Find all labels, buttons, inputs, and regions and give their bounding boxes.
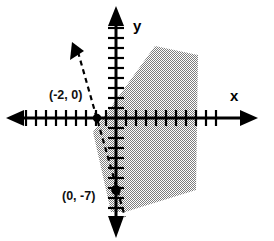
x-axis-label: x xyxy=(230,88,238,103)
y-axis-label: y xyxy=(133,18,141,33)
boundary-line-arrowhead xyxy=(70,42,84,60)
point-label-b: (0, -7) xyxy=(62,190,95,203)
point-label-a: (-2, 0) xyxy=(49,89,82,102)
x-axis-right-arrowhead xyxy=(240,110,258,126)
y-axis-bottom-arrowhead xyxy=(108,216,124,238)
point-marker-b xyxy=(111,185,121,195)
x-axis-left-arrowhead xyxy=(6,110,24,126)
point-marker-a xyxy=(93,114,101,122)
graph-figure: x y (-2, 0) (0, -7) xyxy=(0,0,274,241)
y-axis-top-arrowhead xyxy=(108,6,124,26)
coordinate-plane-svg xyxy=(0,0,274,241)
